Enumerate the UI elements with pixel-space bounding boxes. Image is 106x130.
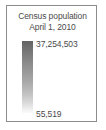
legend-title-line-2: April 1, 2010 bbox=[7, 22, 98, 33]
map-legend-panel: Census population April 1, 2010 37,254,5… bbox=[6, 5, 97, 122]
legend-title-line-1: Census population bbox=[7, 11, 98, 22]
legend-min-value-label: 55,519 bbox=[36, 109, 61, 120]
vertical-gradient-ramp-icon bbox=[22, 41, 33, 113]
legend-title: Census population April 1, 2010 bbox=[7, 11, 98, 33]
legend-max-value-label: 37,254,503 bbox=[36, 39, 78, 50]
legend-color-ramp bbox=[22, 41, 33, 113]
